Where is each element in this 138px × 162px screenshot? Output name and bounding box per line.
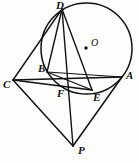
label-point-A: A [126, 70, 133, 81]
center-dot-O [84, 46, 87, 49]
label-point-E: E [93, 92, 100, 103]
segment-D-P [62, 9, 73, 146]
segment-A-P [73, 77, 122, 146]
label-point-P: P [78, 145, 85, 156]
label-point-F: F [57, 88, 64, 99]
geometry-canvas [0, 0, 138, 162]
label-center-O: O [91, 38, 98, 48]
label-point-C: C [3, 79, 10, 90]
segment-D-B [47, 9, 62, 72]
label-point-D: D [56, 0, 64, 11]
label-point-B: B [38, 63, 45, 74]
geometry-figure: D A B E C F P O [0, 0, 138, 162]
